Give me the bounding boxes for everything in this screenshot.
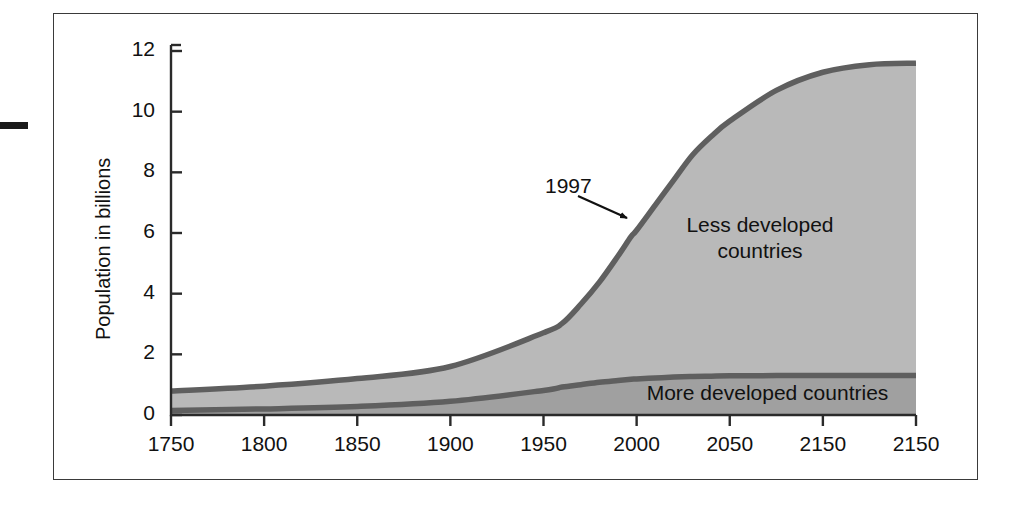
population-projection-chart: Population in billions 024681012 1750180… — [0, 0, 1025, 508]
annotation-label-1997: 1997 — [545, 174, 592, 198]
x-tick-label: 1750 — [126, 432, 216, 456]
x-tick-label: 1900 — [405, 432, 495, 456]
x-tick-label: 1850 — [312, 432, 402, 456]
y-tick-label: 12 — [107, 37, 155, 61]
x-tick-label: 1950 — [499, 432, 589, 456]
y-axis-ticks — [171, 51, 182, 415]
x-tick-label: 2150 — [871, 432, 961, 456]
y-tick-label: 2 — [107, 340, 155, 364]
series-label-less-developed: Less developed countries — [655, 212, 865, 265]
x-tick-label: 2150 — [778, 432, 868, 456]
series-label-more-developed: More developed countries — [630, 380, 905, 406]
y-tick-label: 0 — [107, 401, 155, 425]
x-tick-label: 2050 — [685, 432, 775, 456]
x-tick-label: 2000 — [592, 432, 682, 456]
y-axis-title: Population in billions — [92, 158, 115, 340]
y-tick-label: 4 — [107, 280, 155, 304]
y-tick-label: 10 — [107, 98, 155, 122]
x-axis-ticks — [171, 415, 916, 426]
x-tick-label: 1800 — [219, 432, 309, 456]
y-tick-label: 8 — [107, 158, 155, 182]
annotation-arrow-1997 — [578, 196, 627, 218]
y-tick-label: 6 — [107, 219, 155, 243]
